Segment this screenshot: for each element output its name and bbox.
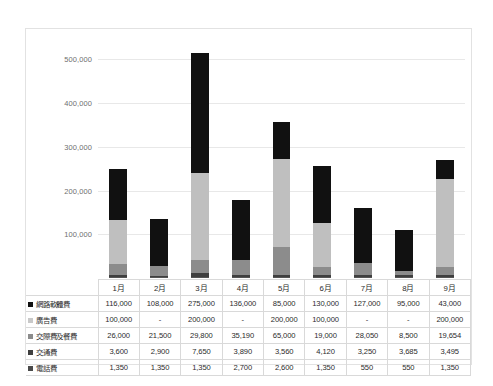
bar-segment[interactable] [354, 208, 372, 264]
bar-segment[interactable] [436, 277, 454, 278]
bar-stack [395, 230, 413, 278]
bar-segment[interactable] [109, 264, 127, 275]
bar-segment[interactable] [436, 160, 454, 179]
table-cell: 28,050 [346, 328, 387, 344]
bar-stack [232, 200, 250, 278]
table-column-header: 9月 [429, 280, 471, 296]
series-name: 交通費 [36, 348, 56, 357]
table-cell: 7,650 [181, 344, 222, 360]
plot-area: 100,000200,000300,000400,000500,000 [26, 33, 471, 278]
table-cell: 29,800 [181, 328, 222, 344]
table-cell: 3,685 [388, 344, 429, 360]
bar-segment[interactable] [273, 247, 291, 275]
bar-column[interactable] [302, 33, 343, 278]
bar-segment[interactable] [354, 277, 372, 278]
table-cell: 3,250 [346, 344, 387, 360]
bar-segment[interactable] [354, 263, 372, 275]
table-cell: 1,350 [98, 360, 139, 376]
y-tick-label: 400,000 [64, 99, 92, 108]
bar-column[interactable] [220, 33, 261, 278]
series-name: 廣告費 [36, 316, 56, 325]
bar-segment[interactable] [436, 179, 454, 267]
y-tick-label: 500,000 [64, 55, 92, 64]
table-column-header: 1月 [98, 280, 139, 296]
bar-segment[interactable] [313, 267, 331, 275]
legend-row-label[interactable]: 網路軟體費 [26, 296, 98, 312]
bar-stack [150, 219, 168, 278]
bar-segment[interactable] [273, 122, 291, 159]
bar-column[interactable] [343, 33, 384, 278]
table-row: 交際費及餐費26,00021,50029,80035,19065,00019,0… [26, 328, 471, 344]
table-cell: 108,000 [139, 296, 180, 312]
bar-segment[interactable] [191, 53, 209, 173]
table-cell: 550 [388, 360, 429, 376]
legend-row-label[interactable]: 交通費 [26, 344, 98, 360]
legend-row-label[interactable]: 交際費及餐費 [26, 328, 98, 344]
legend-row-label[interactable]: 廣告費 [26, 312, 98, 328]
bar-column[interactable] [139, 33, 180, 278]
bar-segment[interactable] [273, 277, 291, 278]
table-cell: 3,600 [98, 344, 139, 360]
bar-column[interactable] [98, 33, 139, 278]
table-cell: 116,000 [98, 296, 139, 312]
table-cell: 1,350 [181, 360, 222, 376]
table-cell: 26,000 [98, 328, 139, 344]
table-column-header: 5月 [264, 280, 305, 296]
bar-segment[interactable] [395, 277, 413, 278]
table-cell: 1,350 [139, 360, 180, 376]
bar-column[interactable] [261, 33, 302, 278]
data-table: 1月2月3月4月5月6月7月8月9月 網路軟體費116,000108,00027… [26, 279, 471, 376]
table-column-header: 2月 [139, 280, 180, 296]
table-cell: - [346, 312, 387, 328]
bar-stack [191, 53, 209, 278]
bar-segment[interactable] [150, 219, 168, 266]
bar-stack [313, 166, 331, 278]
legend-swatch-icon [28, 350, 33, 355]
table-cell: 130,000 [305, 296, 346, 312]
bar-segment[interactable] [273, 159, 291, 247]
table-cell: 136,000 [222, 296, 263, 312]
table-cell: 65,000 [264, 328, 305, 344]
legend-swatch-icon [28, 334, 33, 339]
table-cell: 19,000 [305, 328, 346, 344]
table-cell: 1,350 [305, 360, 346, 376]
table-column-header: 3月 [181, 280, 222, 296]
bar-segment[interactable] [232, 260, 250, 275]
bar-segment[interactable] [191, 260, 209, 273]
bar-segment[interactable] [109, 220, 127, 264]
table-cell: 2,700 [222, 360, 263, 376]
table-cell: 2,900 [139, 344, 180, 360]
table-cell: 4,120 [305, 344, 346, 360]
y-tick-label: 300,000 [64, 142, 92, 151]
table-cell: 3,495 [429, 344, 471, 360]
bar-segment[interactable] [150, 266, 168, 275]
bar-series-group [98, 33, 465, 278]
table-cell: 21,500 [139, 328, 180, 344]
legend-row-label[interactable]: 電話費 [26, 360, 98, 376]
bar-segment[interactable] [232, 277, 250, 278]
bar-segment[interactable] [109, 277, 127, 278]
bar-column[interactable] [180, 33, 221, 278]
table-cell: 100,000 [305, 312, 346, 328]
bar-segment[interactable] [313, 223, 331, 267]
y-tick-label: 200,000 [64, 186, 92, 195]
series-name: 交際費及餐費 [36, 332, 77, 341]
table-cell: - [222, 312, 263, 328]
bar-column[interactable] [424, 33, 465, 278]
bar-segment[interactable] [395, 230, 413, 272]
bar-segment[interactable] [313, 277, 331, 278]
bar-segment[interactable] [191, 277, 209, 278]
bar-segment[interactable] [313, 166, 331, 223]
table-column-header: 7月 [346, 280, 387, 296]
bar-stack [436, 160, 454, 278]
bar-segment[interactable] [436, 267, 454, 276]
bar-column[interactable] [383, 33, 424, 278]
bar-segment[interactable] [232, 200, 250, 260]
bar-segment[interactable] [150, 277, 168, 278]
legend-swatch-icon [28, 366, 33, 371]
table-column-header: 6月 [305, 280, 346, 296]
table-cell: 43,000 [429, 296, 471, 312]
bar-segment[interactable] [109, 169, 127, 220]
y-axis: 100,000200,000300,000400,000500,000 [26, 33, 96, 278]
bar-segment[interactable] [191, 173, 209, 261]
